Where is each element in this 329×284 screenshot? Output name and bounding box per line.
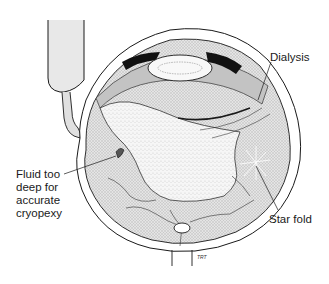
label-fluid: Fluid too deep for accurate cryopexy	[16, 168, 62, 220]
label-fluid-line-4: cryopexy	[16, 207, 62, 220]
label-star-fold: Star fold	[269, 213, 312, 226]
optic-disc	[174, 223, 190, 233]
label-fluid-line-1: Fluid too	[16, 168, 62, 181]
optic-nerve	[172, 250, 192, 266]
label-fluid-line-2: deep for	[16, 181, 62, 194]
cryoprobe	[48, 20, 84, 138]
label-fluid-line-3: accurate	[16, 194, 62, 207]
label-dialysis: Dialysis	[270, 51, 310, 64]
eye-diagram	[0, 0, 329, 284]
artist-signature: TRT	[197, 254, 207, 260]
lens	[148, 55, 212, 81]
